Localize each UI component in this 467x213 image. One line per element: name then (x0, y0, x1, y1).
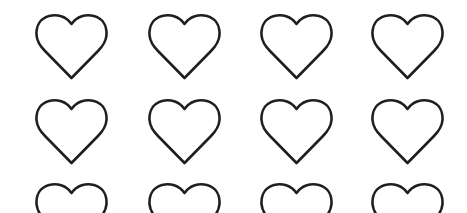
heart-icon (148, 14, 221, 81)
heart-icon (260, 99, 333, 166)
heart-icon (371, 14, 444, 81)
heart-pattern-grid (0, 0, 467, 213)
heart-icon (148, 183, 221, 213)
heart-icon (35, 183, 108, 213)
heart-icon (371, 183, 444, 213)
heart-icon (260, 183, 333, 213)
heart-icon (35, 99, 108, 166)
heart-icon (260, 14, 333, 81)
heart-icon (35, 14, 108, 81)
heart-icon (371, 99, 444, 166)
heart-icon (148, 99, 221, 166)
